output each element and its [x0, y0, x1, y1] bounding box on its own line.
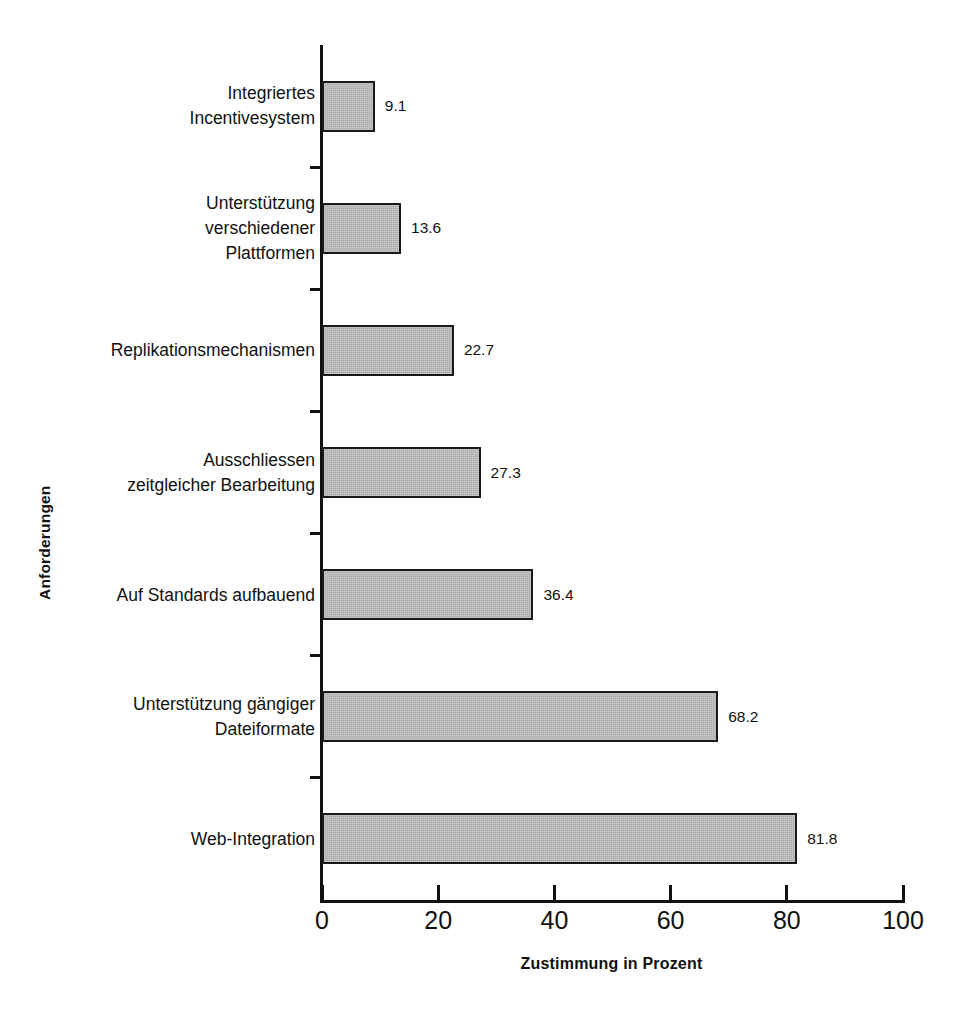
bar-value-label: 81.8 — [807, 830, 837, 848]
x-tick-label-80: 80 — [773, 906, 801, 935]
category-label: Ausschliessen zeitgleicher Bearbeitung — [15, 448, 315, 498]
y-tick-4 — [310, 532, 321, 535]
x-tick-label-40: 40 — [540, 906, 568, 935]
bar-value-label: 9.1 — [385, 97, 407, 115]
category-label: Auf Standards aufbauend — [15, 582, 315, 607]
category-label: Integriertes Incentivesystem — [15, 81, 315, 131]
bar-value-label: 36.4 — [543, 586, 573, 604]
bar-value-label: 27.3 — [491, 464, 521, 482]
category-label: Unterstützung gängiger Dateiformate — [15, 692, 315, 742]
x-axis-line — [320, 900, 903, 903]
y-tick-2 — [310, 288, 321, 291]
x-tick-80 — [785, 885, 788, 903]
y-tick-3 — [310, 410, 321, 413]
category-label: Replikationsmechanismen — [15, 338, 315, 363]
bar-value-label: 22.7 — [464, 341, 494, 359]
bar-chart: Anforderungen 020406080100 9.113.622.727… — [0, 0, 969, 1027]
category-label: Web-Integration — [15, 826, 315, 851]
bar — [322, 691, 718, 742]
bar — [322, 569, 533, 620]
x-tick-label-0: 0 — [315, 906, 329, 935]
x-tick-0 — [321, 885, 324, 903]
bar — [322, 447, 481, 498]
x-tick-label-60: 60 — [657, 906, 685, 935]
x-tick-100 — [902, 885, 905, 903]
y-tick-1 — [310, 166, 321, 169]
bar — [322, 81, 375, 132]
y-tick-6 — [310, 776, 321, 779]
x-tick-60 — [669, 885, 672, 903]
category-label: Unterstützung verschiedener Plattformen — [15, 191, 315, 266]
bar — [322, 813, 797, 864]
x-tick-label-100: 100 — [882, 906, 924, 935]
bar-value-label: 68.2 — [728, 708, 758, 726]
bar — [322, 203, 401, 254]
y-tick-5 — [310, 654, 321, 657]
x-tick-20 — [437, 885, 440, 903]
x-tick-label-20: 20 — [424, 906, 452, 935]
x-tick-40 — [553, 885, 556, 903]
x-axis-title: Zustimmung in Prozent — [320, 955, 903, 973]
bar-value-label: 13.6 — [411, 219, 441, 237]
bar — [322, 325, 454, 376]
plot-area: 020406080100 9.113.622.727.336.468.281.8… — [0, 0, 969, 1027]
